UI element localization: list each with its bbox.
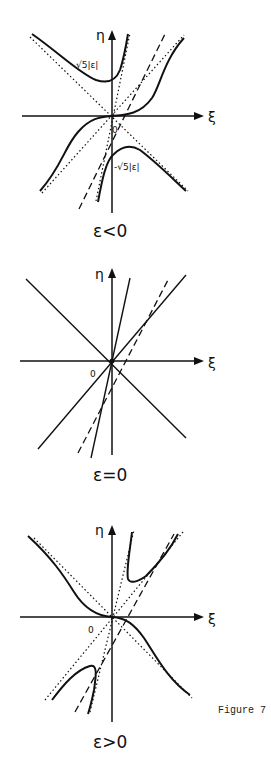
xi-axis-label: ξ — [208, 611, 216, 627]
eta-axis-label: η — [95, 266, 104, 282]
xi-axis-label: ξ — [208, 109, 216, 125]
phase-diagram-eps-negative: ξ η 0 √5|ε| -√5|ε| — [0, 20, 271, 240]
panel-eps-negative: ξ η 0 √5|ε| -√5|ε| ε<0 — [0, 20, 271, 240]
panel-caption: ε<0 — [93, 221, 127, 241]
eta-axis-label: η — [96, 27, 105, 43]
origin-label: 0 — [90, 369, 96, 379]
panel-eps-positive: ξ η 0 ε>0 — [0, 520, 271, 730]
origin-label: 0 — [88, 625, 94, 635]
figure-label: Figure 7 — [218, 705, 266, 716]
upper-annotation: √5|ε| — [76, 60, 98, 70]
xi-axis-label: ξ — [208, 355, 216, 371]
origin-label: 0 — [112, 125, 118, 135]
phase-diagram-eps-positive: ξ η 0 — [0, 520, 271, 730]
phase-diagram-eps-zero: ξ η 0 — [0, 255, 271, 465]
panel-caption: ε=0 — [93, 465, 127, 485]
panel-caption: ε>0 — [93, 732, 127, 752]
lower-annotation: -√5|ε| — [114, 162, 140, 172]
eta-axis-label: η — [95, 522, 104, 538]
panel-eps-zero: ξ η 0 ε=0 — [0, 255, 271, 465]
